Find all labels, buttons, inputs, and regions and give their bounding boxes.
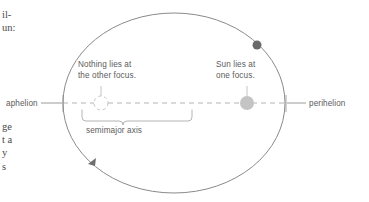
- body-text-fragment-bottom: ge t a y s: [2, 120, 12, 173]
- body-text-fragment-bottom-line4: s: [2, 160, 12, 173]
- aphelion-label: aphelion: [6, 99, 38, 110]
- planet-marker: [253, 41, 262, 50]
- empty-focus-annotation: Nothing lies at the other focus.: [78, 60, 136, 81]
- semimajor-axis-brace: [82, 110, 192, 125]
- body-text-fragment-top: il- un:: [2, 8, 15, 34]
- empty-focus-marker: [94, 96, 108, 110]
- orbit-direction-arrowhead: [88, 158, 96, 166]
- sun-focus-annotation-line2: one focus.: [216, 71, 255, 82]
- perihelion-label: perihelion: [309, 99, 346, 110]
- body-text-fragment-top-line1: il-: [2, 8, 15, 21]
- empty-focus-annotation-line1: Nothing lies at: [78, 60, 136, 71]
- orbit-figure: Nothing lies at the other focus. Sun lie…: [0, 0, 369, 202]
- semimajor-axis-label: semimajor axis: [86, 126, 142, 137]
- sun-focus-annotation: Sun lies at one focus.: [216, 60, 255, 81]
- sun-focus-annotation-line1: Sun lies at: [216, 60, 255, 71]
- sun-marker: [240, 96, 254, 110]
- body-text-fragment-bottom-line1: ge: [2, 120, 12, 133]
- empty-focus-annotation-line2: the other focus.: [78, 71, 136, 82]
- body-text-fragment-top-line2: un:: [2, 21, 15, 34]
- body-text-fragment-bottom-line2: t a: [2, 133, 12, 146]
- body-text-fragment-bottom-line3: y: [2, 146, 12, 159]
